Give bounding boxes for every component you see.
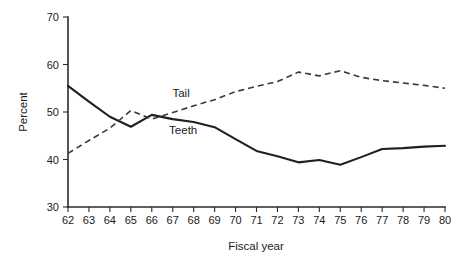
x-tick-label: 75 (334, 214, 346, 226)
x-tick-label: 72 (271, 214, 283, 226)
x-tick-label: 71 (250, 214, 262, 226)
x-tick-label: 79 (418, 214, 430, 226)
series-label-teeth: Teeth (169, 124, 197, 136)
series-line-teeth (68, 86, 445, 165)
x-tick-label: 80 (439, 214, 451, 226)
y-axis: 3040506070 (47, 11, 68, 213)
x-tick-label: 70 (229, 214, 241, 226)
series-line-tail (68, 71, 445, 154)
x-tick-label: 69 (208, 214, 220, 226)
y-tick-labels: 3040506070 (47, 11, 59, 213)
x-tick-label: 63 (83, 214, 95, 226)
x-tick-label: 67 (167, 214, 179, 226)
y-tick-label: 30 (47, 201, 59, 213)
x-tick-label: 65 (125, 214, 137, 226)
x-tick-label: 73 (292, 214, 304, 226)
series-annotations: Tail Teeth (169, 87, 197, 136)
y-tick-label: 70 (47, 11, 59, 23)
x-tick-label: 77 (376, 214, 388, 226)
x-tick-labels: 62636465666768697071727374757677787980 (62, 214, 451, 226)
x-tick-label: 78 (397, 214, 409, 226)
y-axis-title: Percent (17, 91, 29, 131)
x-axis-title: Fiscal year (228, 240, 284, 252)
x-axis: 62636465666768697071727374757677787980 (62, 207, 451, 226)
x-tick-label: 62 (62, 214, 74, 226)
x-tick-label: 74 (313, 214, 325, 226)
x-tick-label: 64 (104, 214, 116, 226)
line-chart: 3040506070 62636465666768697071727374757… (0, 0, 473, 263)
series-label-tail: Tail (172, 87, 189, 99)
chart-canvas: 3040506070 62636465666768697071727374757… (0, 0, 473, 263)
x-tick-label: 76 (355, 214, 367, 226)
series-lines (68, 71, 445, 165)
x-tick-label: 66 (146, 214, 158, 226)
x-tick-label: 68 (188, 214, 200, 226)
y-tick-label: 60 (47, 59, 59, 71)
y-tick-label: 50 (47, 106, 59, 118)
y-tick-label: 40 (47, 154, 59, 166)
